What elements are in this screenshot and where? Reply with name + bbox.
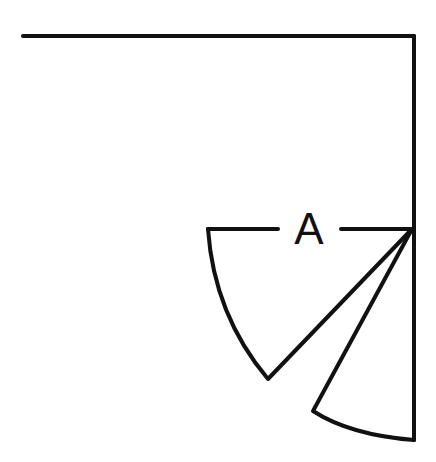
label-a: A	[294, 204, 324, 253]
door-leaf-small	[313, 229, 414, 440]
door-swing-diagram: A	[0, 0, 436, 462]
